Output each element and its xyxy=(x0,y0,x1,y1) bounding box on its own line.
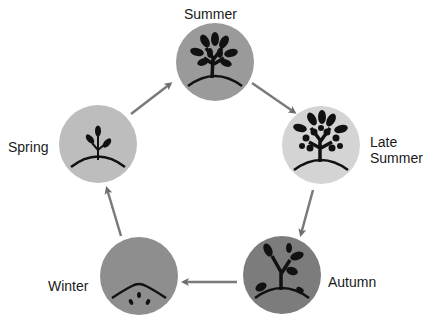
label-autumn: Autumn xyxy=(328,274,376,290)
arrow-spring-to-summer xyxy=(131,84,170,114)
node-late-summer xyxy=(282,106,360,184)
label-late-summer-line2: Summer xyxy=(370,150,423,166)
arrow-summer-to-late-summer xyxy=(252,83,294,112)
winter-circle xyxy=(100,237,178,315)
label-late-summer: Late Summer xyxy=(370,134,423,166)
label-spring: Spring xyxy=(8,139,48,155)
node-winter xyxy=(100,237,178,315)
node-autumn xyxy=(243,236,321,314)
label-summer: Summer xyxy=(184,6,237,22)
arrow-winter-to-spring xyxy=(107,189,121,236)
label-winter: Winter xyxy=(48,278,88,294)
arrow-late-summer-to-autumn xyxy=(301,190,313,234)
label-late-summer-line1: Late xyxy=(370,134,423,150)
node-spring xyxy=(59,105,137,183)
node-summer xyxy=(176,23,254,101)
